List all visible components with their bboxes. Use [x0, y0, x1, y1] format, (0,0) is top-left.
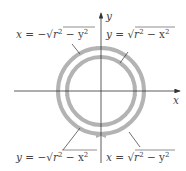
label-top-left: x = −√r2 − y2 — [16, 27, 95, 40]
x-axis-label: x — [173, 94, 179, 106]
y-axis-label: y — [105, 10, 113, 22]
label-bottom-right: x = √r2 − y2 — [106, 150, 175, 163]
svg-text:x = −√r2 − y2: x = −√r2 − y2 — [16, 28, 88, 40]
svg-text:y = −√r2 − x2: y = −√r2 − x2 — [15, 151, 88, 163]
label-top-right: y = √r2 − x2 — [105, 27, 175, 40]
label-bottom-left: y = −√r2 − x2 — [15, 150, 97, 163]
svg-text:x = √r2 − y2: x = √r2 − y2 — [106, 151, 169, 163]
svg-text:y = √r2 − x2: y = √r2 − x2 — [105, 28, 169, 40]
circle-parametrization-diagram: x y x = −√r2 − y2 y = √r2 − x2 y = −√r2 … — [0, 0, 186, 171]
